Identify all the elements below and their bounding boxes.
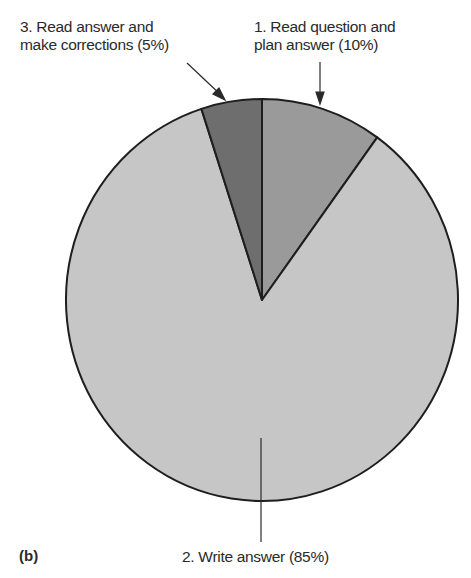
label-slice-1-line-1: 1. Read question and	[254, 18, 395, 36]
pie-chart	[0, 0, 471, 578]
label-slice-1-line-2: plan answer (10%)	[254, 36, 395, 54]
label-slice-3: 3. Read answer and make corrections (5%)	[20, 18, 169, 54]
label-slice-3-line-1: 3. Read answer and	[20, 18, 169, 36]
label-slice-3-line-2: make corrections (5%)	[20, 36, 169, 54]
panel-label: (b)	[19, 547, 38, 564]
label-slice-2: 2. Write answer (85%)	[182, 548, 329, 566]
arrow-head-slice-1	[316, 92, 324, 104]
label-slice-2-line-1: 2. Write answer (85%)	[182, 548, 329, 566]
label-slice-1: 1. Read question and plan answer (10%)	[254, 18, 395, 54]
